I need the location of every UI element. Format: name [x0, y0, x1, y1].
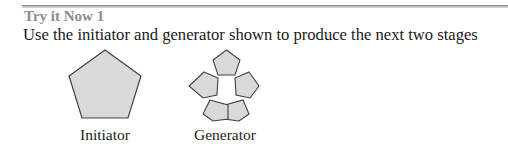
section-title: Try it Now 1 — [24, 8, 104, 25]
generator-label: Generator — [194, 126, 256, 144]
initiator-label: Initiator — [80, 126, 130, 144]
generator-pentagon-ring-figure — [180, 42, 270, 127]
initiator-pentagon-figure — [60, 45, 160, 125]
